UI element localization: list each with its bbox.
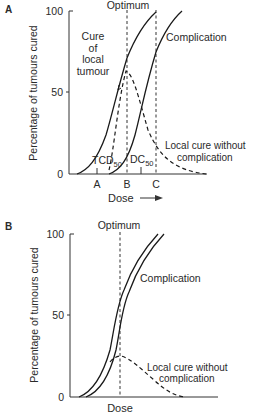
y-axis-label-b: Percentage of tumours cured: [28, 247, 40, 383]
optimum-label: Optimum: [107, 0, 150, 11]
local-cure-label-b-2: complication: [159, 373, 215, 384]
optimum-label-b: Optimum: [98, 219, 141, 231]
panel-a-letter: A: [5, 4, 12, 15]
x-tick-a: A: [93, 178, 100, 190]
local-cure-label-2: complication: [177, 152, 233, 163]
y-tick-100: 100: [45, 5, 63, 17]
local-cure-label-b-1: Local cure without: [147, 362, 228, 373]
cure-label-3: local: [82, 53, 104, 65]
y-tick-100-b: 100: [46, 228, 64, 240]
cure-label-4: tumour: [77, 65, 110, 77]
x-tick-c: C: [152, 178, 160, 190]
complication-label-b: Complication: [140, 272, 201, 284]
y-tick-0: 0: [57, 168, 63, 180]
x-axis-label-b: Dose: [107, 402, 133, 414]
y-tick-50-b: 50: [52, 309, 64, 321]
x-tick-b: B: [123, 178, 130, 190]
cure-label-1: Cure: [82, 30, 105, 42]
x-axis-label: Dose: [108, 192, 134, 204]
figure: A Percentage of tumours cured 100 50 0 A…: [0, 0, 253, 420]
dc50-label: DC50: [130, 153, 154, 168]
tcd50-label: TCD50: [92, 154, 122, 169]
y-axis-label: Percentage of tumours cured: [27, 25, 39, 161]
y-tick-50: 50: [51, 86, 63, 98]
y-tick-0-b: 0: [58, 391, 64, 403]
local-cure-label-1: Local cure without: [165, 140, 246, 151]
complication-label: Complication: [166, 31, 227, 43]
panel-b: B Percentage of tumours cured 100 50 0 D…: [5, 219, 228, 414]
panel-b-letter: B: [5, 221, 12, 232]
panel-a: A Percentage of tumours cured 100 50 0 A…: [5, 0, 246, 204]
